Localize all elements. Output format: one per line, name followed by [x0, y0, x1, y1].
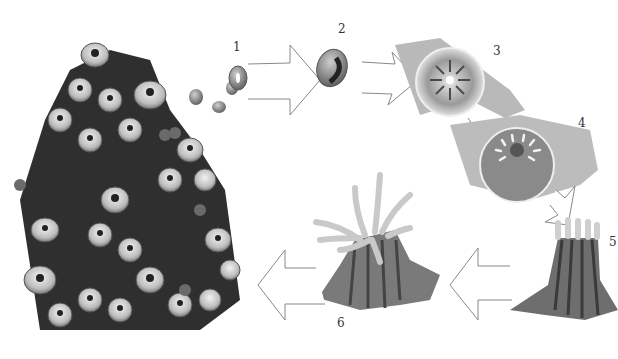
stage-5-young-polyp [510, 217, 618, 320]
stage-label-4: 4 [578, 116, 586, 130]
stage-2-larva [313, 46, 352, 90]
stage-label-5: 5 [609, 235, 617, 249]
stage-1-egg [229, 66, 247, 90]
stage-4-developing-polyp [450, 115, 598, 202]
arrow-1-to-2 [248, 45, 320, 115]
stage-label-2: 2 [338, 22, 346, 36]
stage-label-3: 3 [493, 44, 501, 58]
stage-label-6: 6 [337, 316, 345, 330]
arrow-6-to-colony [258, 250, 325, 320]
stage-label-1: 1 [233, 40, 241, 54]
arrow-5-to-6 [450, 248, 512, 320]
coral-life-cycle-diagram: 1 2 3 4 5 6 [0, 0, 618, 359]
stage-6-mature-polyp [316, 175, 440, 310]
diagram-art [0, 0, 618, 359]
coral-colony [14, 43, 240, 330]
stage-3-settled-polyp [395, 38, 525, 118]
